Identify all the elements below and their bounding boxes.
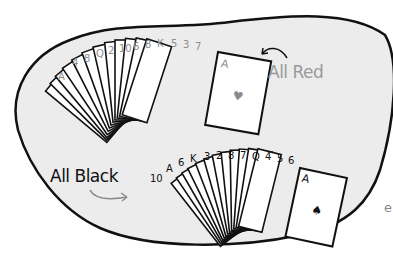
svg-text:7: 7 [240, 150, 246, 161]
svg-text:8: 8 [145, 39, 151, 50]
all-black-label: All Black [50, 166, 118, 186]
svg-text:Q: Q [252, 151, 260, 162]
svg-text:5: 5 [277, 153, 283, 164]
svg-text:6: 6 [133, 41, 139, 52]
svg-text:4: 4 [265, 151, 271, 162]
svg-text:10: 10 [150, 173, 163, 184]
svg-text:8: 8 [228, 150, 234, 161]
svg-text:A: A [166, 163, 173, 174]
svg-text:6: 6 [178, 157, 184, 168]
svg-text:7: 7 [195, 41, 201, 52]
svg-text:10: 10 [119, 43, 132, 54]
svg-text:3: 3 [183, 39, 189, 50]
svg-text:A: A [58, 71, 65, 82]
svg-text:8: 8 [84, 53, 90, 64]
red-ace-card: A ♥ [205, 52, 271, 134]
stray-character: e [384, 200, 392, 215]
svg-text:2: 2 [108, 45, 114, 56]
svg-text:3: 3 [204, 151, 210, 162]
svg-text:2: 2 [216, 150, 222, 161]
svg-text:Q: Q [96, 48, 104, 59]
all-red-label: All Red [268, 62, 323, 82]
svg-text:K: K [157, 38, 164, 49]
svg-text:4: 4 [72, 57, 78, 68]
svg-text:5: 5 [171, 38, 177, 49]
svg-text:6: 6 [288, 155, 294, 166]
svg-text:K: K [190, 153, 197, 164]
card-hands-illustration: A ♥ A48 Q210 68K 537 [0, 0, 393, 258]
